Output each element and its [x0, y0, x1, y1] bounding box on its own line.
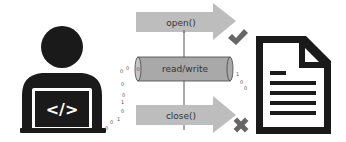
bits-right: 1 0 0 [236, 71, 247, 91]
check-icon [228, 29, 248, 45]
svg-text:1: 1 [121, 99, 124, 105]
file-io-diagram: </> open() 0 read/write close() 0 0 0 0 … [0, 0, 346, 142]
svg-text:0: 0 [122, 92, 125, 98]
document-line [270, 101, 316, 105]
developer-laptop-icon: </> [20, 26, 106, 133]
open-label: open() [166, 18, 195, 28]
document-line [270, 111, 316, 115]
svg-text:0: 0 [121, 81, 124, 87]
document-icon [256, 36, 331, 134]
read-write-label: read/write [162, 64, 208, 74]
laptop-base [20, 128, 106, 133]
bits-left: 0 0 0 0 1 0 1 0 0 [105, 65, 129, 131]
cylinder-end-right [227, 57, 233, 81]
close-arrow: close() [136, 96, 236, 133]
document-line [270, 81, 316, 85]
svg-text:1: 1 [117, 116, 120, 122]
person-head [41, 26, 83, 68]
svg-text:0: 0 [136, 66, 139, 72]
code-symbol-icon: </> [46, 100, 79, 119]
svg-text:0: 0 [244, 85, 247, 91]
document-line [270, 71, 286, 75]
svg-text:0: 0 [105, 125, 108, 131]
svg-text:0: 0 [240, 79, 243, 85]
svg-text:0: 0 [120, 68, 123, 74]
svg-text:1: 1 [236, 71, 239, 77]
svg-text:0: 0 [110, 119, 113, 125]
svg-text:0: 0 [121, 108, 124, 114]
read-write-pipe: 0 read/write [135, 57, 233, 81]
svg-text:0: 0 [126, 65, 129, 71]
open-arrow: open() [136, 3, 236, 40]
close-label: close() [166, 111, 196, 121]
document-line [270, 91, 316, 95]
